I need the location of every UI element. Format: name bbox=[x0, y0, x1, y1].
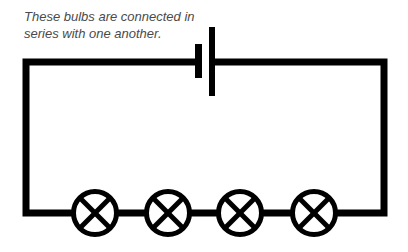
battery-cell-icon bbox=[195, 27, 215, 96]
lamp-bulb-icon bbox=[74, 192, 117, 235]
lamp-bulb-icon bbox=[147, 192, 190, 235]
battery-positive-plate bbox=[209, 27, 215, 96]
lamp-bulb-icon bbox=[293, 192, 336, 235]
lamp-bulb-icon bbox=[219, 192, 262, 235]
series-circuit-diagram bbox=[0, 0, 408, 252]
battery-negative-plate bbox=[195, 44, 202, 78]
circuit-wires bbox=[26, 62, 384, 213]
